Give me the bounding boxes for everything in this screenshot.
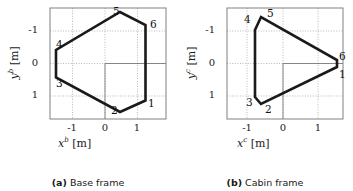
x-axis-label-b: xc [m] <box>237 136 347 150</box>
vertex-label-a-5: 5 <box>113 5 120 17</box>
vertex-label-b-1: 1 <box>339 68 346 80</box>
vertex-label-b-6: 6 <box>339 50 346 62</box>
x-axis-sup-a: b <box>64 136 68 144</box>
vertex-label-b-2: 2 <box>265 103 272 115</box>
xtick-label-b-1: 0 <box>271 122 295 133</box>
y-axis-label-b: yc [m] <box>184 33 198 93</box>
y-axis-sup-b: c <box>184 69 192 73</box>
vertex-label-a-2: 2 <box>111 104 118 116</box>
y-axis-label-a: yb [m] <box>7 33 21 93</box>
vertex-label-a-3: 3 <box>56 77 63 89</box>
vertex-label-b-3: 3 <box>246 96 253 108</box>
xtick-label-b-0: -1 <box>235 122 259 133</box>
caption-tag-a: (a) <box>52 177 67 188</box>
xtick-label-b-2: 1 <box>306 122 330 133</box>
x-axis-unit-a: [m] <box>72 137 91 150</box>
caption-text-a: Base frame <box>70 177 124 188</box>
vertex-label-a-1: 1 <box>148 97 155 109</box>
xtick-label-a-2: 1 <box>125 122 149 133</box>
y-axis-sup-a: b <box>7 69 15 73</box>
x-axis-label-a: xb [m] <box>58 136 168 150</box>
caption-text-b: Cabin frame <box>245 177 303 188</box>
x-axis-unit-b: [m] <box>251 137 270 150</box>
vertex-label-b-4: 4 <box>244 13 251 25</box>
y-axis-sym-b: y <box>185 73 198 79</box>
caption-tag-b: (b) <box>227 177 242 188</box>
vertex-label-a-6: 6 <box>150 18 157 30</box>
caption-base-frame: (a) Base frame <box>0 177 176 188</box>
caption-cabin-frame: (b) Cabin frame <box>177 177 353 188</box>
y-axis-unit-b: [m] <box>185 47 198 66</box>
xtick-label-a-1: 0 <box>93 122 117 133</box>
panel-base-frame: -1 0 1 -1 0 1 yb [m] xb [m] 1 2 3 4 5 6 … <box>0 0 176 191</box>
figure-container: -1 0 1 -1 0 1 yb [m] xb [m] 1 2 3 4 5 6 … <box>0 0 353 191</box>
y-axis-unit-a: [m] <box>8 46 21 65</box>
x-axis-sup-b: c <box>243 136 247 144</box>
vertex-label-b-5: 5 <box>267 7 274 19</box>
xtick-label-a-0: -1 <box>60 122 84 133</box>
vertex-label-a-4: 4 <box>56 38 63 50</box>
y-axis-sym-a: y <box>8 73 21 79</box>
panel-cabin-frame: -1 0 1 -1 0 1 yc [m] xc [m] 1 2 3 4 5 6 … <box>177 0 353 191</box>
